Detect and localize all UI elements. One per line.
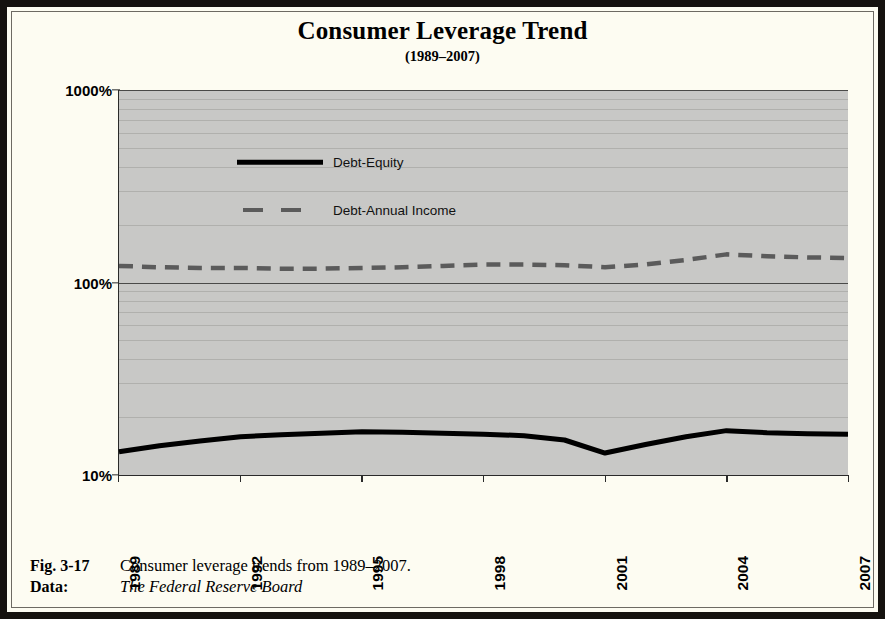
legend-label-debt-annual-income: Debt-Annual Income (333, 203, 456, 218)
x-axis-tick (605, 475, 606, 482)
y-axis: 1000%100%10% (12, 90, 112, 475)
y-axis-tick-label: 1000% (65, 82, 112, 99)
caption-row-data: Data: The Federal Reserve Board (30, 576, 860, 597)
legend-swatch-dashed (243, 208, 317, 212)
caption-data-source: The Federal Reserve Board (120, 576, 302, 597)
legend-item-debt-equity: Debt-Equity (237, 152, 517, 172)
caption-data-label: Data: (30, 576, 120, 597)
plot-area: Debt-Equity Debt-Annual Income (118, 90, 848, 475)
figure-frame: Consumer Leverage Trend (1989–2007) 1000… (0, 0, 885, 619)
series-line-debt-equity (119, 431, 848, 453)
series-layer (119, 90, 848, 475)
x-axis-tick (118, 475, 119, 482)
x-axis-tick (240, 475, 241, 482)
y-axis-tick-label: 10% (82, 467, 112, 484)
x-axis-tick (848, 475, 849, 482)
figure-caption: Fig. 3-17 Consumer leverage trends from … (30, 555, 860, 597)
legend-item-debt-annual-income: Debt-Annual Income (237, 200, 537, 220)
x-axis-tick (726, 475, 727, 482)
legend-swatch-solid (237, 160, 323, 165)
caption-row-figure: Fig. 3-17 Consumer leverage trends from … (30, 555, 860, 576)
caption-figure-text: Consumer leverage trends from 1989–2007. (120, 555, 411, 576)
figure-inner-border: Consumer Leverage Trend (1989–2007) 1000… (11, 11, 874, 608)
series-line-debt-annual-income (119, 254, 848, 268)
legend-label-debt-equity: Debt-Equity (333, 155, 404, 170)
caption-figure-number: Fig. 3-17 (30, 555, 120, 576)
x-axis-tick (483, 475, 484, 482)
x-axis-tick (361, 475, 362, 482)
chart-plot-wrapper: 1000%100%10% Debt-Equity (12, 12, 885, 619)
y-axis-tick-label: 100% (74, 274, 112, 291)
